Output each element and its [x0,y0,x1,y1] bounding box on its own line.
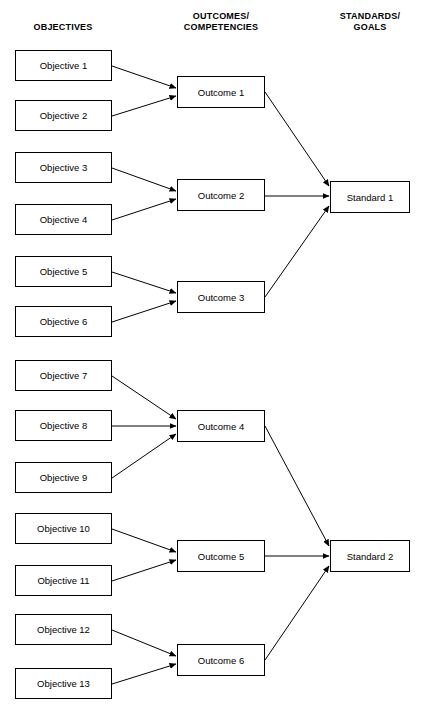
objective-box-13[interactable]: Objective 13 [15,668,112,699]
objective-box-label: Objective 9 [40,472,88,483]
edge-arrow [112,272,176,293]
standard-box-1[interactable]: Standard 1 [330,181,410,213]
objective-box-label: Objective 11 [37,575,89,586]
objective-box-label: Objective 7 [40,370,88,381]
objective-box-8[interactable]: Objective 8 [15,410,112,441]
standard-box-label: Standard 2 [347,551,393,562]
column-header-objectives: OBJECTIVES [13,22,113,33]
objective-box-7[interactable]: Objective 7 [15,360,112,391]
objective-box-label: Objective 5 [40,266,88,277]
edge-arrow [112,199,176,220]
objective-box-6[interactable]: Objective 6 [15,306,112,337]
objective-box-label: Objective 8 [40,420,88,431]
edge-arrow [112,529,176,552]
objective-box-9[interactable]: Objective 9 [15,462,112,493]
objective-box-label: Objective 1 [40,60,88,71]
objective-box-12[interactable]: Objective 12 [15,614,112,645]
edge-arrow [265,92,329,186]
edge-arrow [112,434,176,478]
outcome-box-3[interactable]: Outcome 3 [177,281,265,313]
edge-arrow [112,560,176,581]
objective-box-1[interactable]: Objective 1 [15,50,112,81]
standard-box-2[interactable]: Standard 2 [330,540,410,572]
objective-box-3[interactable]: Objective 3 [15,152,112,183]
objective-box-label: Objective 6 [40,316,88,327]
standard-box-label: Standard 1 [347,192,393,203]
column-header-outcomes-competencies: OUTCOMES/ COMPETENCIES [169,11,273,33]
objective-box-label: Objective 2 [40,110,88,121]
edge-arrow [265,206,329,297]
outcome-box-label: Outcome 5 [198,551,244,562]
objective-box-label: Objective 13 [37,678,90,689]
edge-arrow [112,96,176,116]
edge-arrow [112,664,176,684]
objective-box-label: Objective 12 [37,624,90,635]
objective-box-11[interactable]: Objective 11 [15,565,112,596]
objective-box-label: Objective 4 [40,214,88,225]
objective-box-label: Objective 10 [37,523,90,534]
edge-arrow [112,630,176,656]
outcome-box-1[interactable]: Outcome 1 [177,76,265,108]
edge-arrow [265,426,329,546]
outcome-box-4[interactable]: Outcome 4 [177,410,265,442]
outcome-box-5[interactable]: Outcome 5 [177,540,265,572]
objective-box-2[interactable]: Objective 2 [15,100,112,131]
edge-arrow [265,566,329,660]
flow-diagram: OBJECTIVES OUTCOMES/ COMPETENCIES STANDA… [0,0,423,715]
objective-box-label: Objective 3 [40,162,88,173]
objective-box-4[interactable]: Objective 4 [15,204,112,235]
outcome-box-label: Outcome 3 [198,292,244,303]
outcome-box-label: Outcome 6 [198,655,244,666]
edge-arrow [112,301,176,322]
edge-arrow [112,66,176,88]
outcome-box-6[interactable]: Outcome 6 [177,644,265,676]
objective-box-5[interactable]: Objective 5 [15,256,112,287]
column-header-standards-goals: STANDARDS/ GOALS [320,11,420,33]
edge-arrow [112,168,176,191]
edge-arrow [112,376,176,419]
outcome-box-2[interactable]: Outcome 2 [177,179,265,211]
objective-box-10[interactable]: Objective 10 [15,513,112,544]
outcome-box-label: Outcome 1 [198,87,244,98]
outcome-box-label: Outcome 4 [198,421,244,432]
outcome-box-label: Outcome 2 [198,190,244,201]
